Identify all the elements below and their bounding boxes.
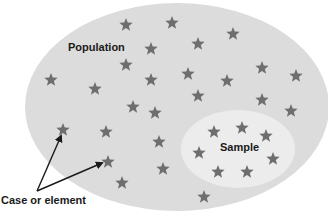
sample-label: Sample	[220, 141, 259, 153]
population-label: Population	[68, 41, 125, 53]
population-ellipse	[25, 3, 328, 211]
case-or-element-label: Case or element	[1, 194, 86, 206]
population-sample-diagram	[0, 0, 328, 215]
